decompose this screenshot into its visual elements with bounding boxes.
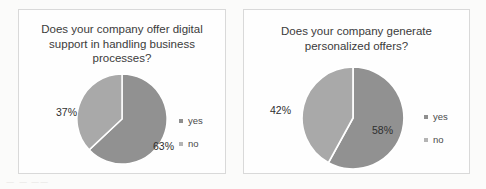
scanned-figure-board: ㅡ ㅡ ㅡㅡ ㅡ ㅡ ㅡㅡㅡ ㅡ ㅡ ㅡㅡ ㅡㅡ ㅡㅡ Does your co… xyxy=(0,0,486,189)
pie-label-no: 37% xyxy=(56,106,77,118)
legend-label-yes: yes xyxy=(433,112,448,122)
legend-swatch-no-icon xyxy=(179,142,183,146)
legend-swatch-no-icon xyxy=(424,138,428,142)
pie-label-yes: 63% xyxy=(153,140,174,152)
legend: yes no xyxy=(424,112,448,158)
legend-label-no: no xyxy=(433,135,444,145)
legend-item-yes[interactable]: yes xyxy=(179,116,203,126)
scan-bleed-text: ㅡ ㅡ ㅡㅡ xyxy=(6,176,49,189)
legend-item-yes[interactable]: yes xyxy=(424,112,448,122)
legend: yes no xyxy=(179,116,203,162)
legend-swatch-yes-icon xyxy=(179,119,183,123)
legend-label-yes: yes xyxy=(188,116,203,126)
pie-svg xyxy=(301,66,405,170)
legend-swatch-yes-icon xyxy=(424,115,428,119)
chart-title: Does your company offer digital support … xyxy=(19,22,225,66)
legend-item-no[interactable]: no xyxy=(179,139,203,149)
chart-panel-digital-support: Does your company offer digital support … xyxy=(18,9,226,174)
pie-label-yes: 58% xyxy=(372,124,393,136)
legend-item-no[interactable]: no xyxy=(424,135,448,145)
pie-chart-personalized-offers xyxy=(301,66,405,170)
legend-label-no: no xyxy=(188,139,199,149)
chart-panel-personalized-offers: Does your company generate personalized … xyxy=(243,9,470,174)
chart-title: Does your company generate personalized … xyxy=(244,24,469,53)
pie-label-no: 42% xyxy=(270,104,291,116)
